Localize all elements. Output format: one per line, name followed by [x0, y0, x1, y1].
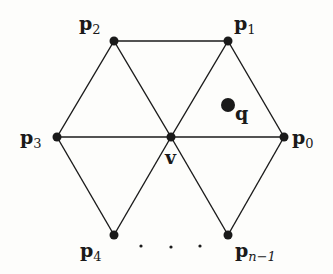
edge-p4-v: [114, 137, 171, 235]
label-p0-text: p: [292, 126, 305, 148]
edge-p2-v: [114, 41, 171, 137]
vertex-p4: [110, 231, 119, 240]
label-p2-sub: 2: [92, 22, 100, 37]
label-p1-text: p: [234, 12, 247, 34]
label-p3-sub: 3: [33, 136, 41, 151]
label-p3: p3: [20, 128, 42, 150]
label-p0: p0: [292, 128, 314, 150]
label-pn1-sub-text: n−1: [248, 249, 276, 264]
ellipsis-dot: [139, 244, 142, 247]
label-v: v: [165, 148, 176, 167]
query-point-q: [221, 98, 235, 112]
label-p2-text: p: [79, 12, 92, 34]
vertex-p3: [53, 133, 62, 142]
label-p4-text: p: [80, 239, 93, 261]
vertices: [53, 37, 289, 249]
vertex-p2: [110, 37, 119, 46]
ellipsis-dot: [169, 245, 172, 248]
label-p1-sub: 1: [247, 22, 255, 37]
triangulation-diagram: p2 p1 p3 p0 v q p4 pn−1: [0, 0, 333, 274]
edge-p1-v: [171, 41, 228, 137]
label-p4: p4: [80, 241, 102, 263]
label-p4-sub: 4: [93, 249, 101, 264]
ellipsis-dot: [198, 244, 201, 247]
label-p0-sub: 0: [305, 136, 313, 151]
label-pn1-sub: n−1: [248, 249, 276, 264]
label-pn1: pn−1: [235, 241, 276, 263]
vertex-p1: [224, 37, 233, 46]
vertex-p0: [280, 133, 289, 142]
edge-v-pn1: [171, 137, 228, 235]
label-q: q: [235, 104, 248, 123]
label-p3-text: p: [20, 126, 33, 148]
edge-p3-p4: [57, 137, 114, 235]
edge-p2-p3: [57, 41, 114, 137]
label-pn1-text: p: [235, 239, 248, 261]
edge-pn1-p0: [228, 137, 284, 235]
vertex-pn1: [224, 231, 233, 240]
label-p2: p2: [79, 14, 101, 36]
label-p1: p1: [234, 14, 256, 36]
vertex-v: [167, 133, 176, 142]
diagram-graphics: [0, 0, 333, 274]
